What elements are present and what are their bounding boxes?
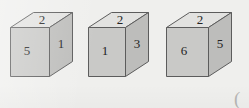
cube-3-right-label: 5 xyxy=(217,36,224,51)
cube-3-left-label: 6 xyxy=(181,43,188,58)
cube-diagram: 2 5 1 2 1 3 2 6 5 xyxy=(0,0,249,108)
cube-3-top-label: 2 xyxy=(197,12,204,27)
cube-3: 2 6 5 xyxy=(167,12,232,77)
corner-parenthesis-mark: ( xyxy=(234,89,240,108)
cube-3-left-face xyxy=(167,28,209,77)
cube-2: 2 1 3 xyxy=(89,12,149,77)
cube-2-right-label: 3 xyxy=(134,36,141,51)
cube-figure-canvas: 2 5 1 2 1 3 2 6 5 ( xyxy=(0,0,249,108)
cube-2-top-label: 2 xyxy=(117,12,124,27)
cube-1-top-label: 2 xyxy=(39,12,46,27)
cube-2-left-label: 1 xyxy=(102,43,109,58)
cube-1-right-label: 1 xyxy=(58,36,65,51)
cube-1-left-label: 5 xyxy=(24,43,31,58)
cube-1: 2 5 1 xyxy=(11,12,73,77)
